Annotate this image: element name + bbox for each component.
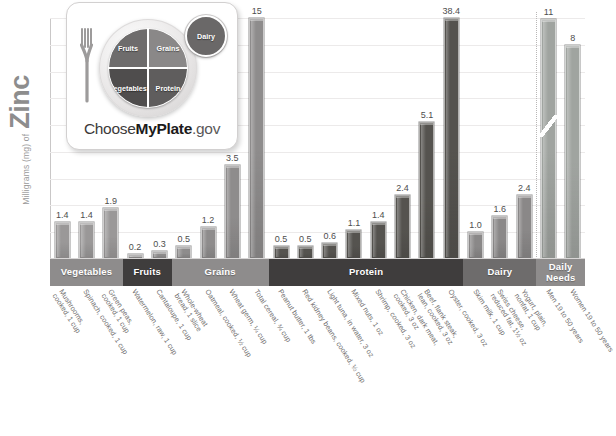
bar (103, 208, 118, 259)
category-label-grains: Grains (172, 259, 269, 286)
x-tick-label: Watermelon, raw, 1 cup (130, 288, 178, 356)
bar (565, 45, 580, 259)
bar-highlight (421, 124, 426, 257)
bar (492, 216, 507, 259)
bar-highlight (567, 47, 572, 257)
fork-icon (80, 27, 94, 103)
bar (79, 222, 94, 259)
bar-value-label: 1.9 (95, 196, 127, 206)
bar-value-label: 2.4 (387, 183, 419, 193)
x-tick-label: Oatmeal, cooked, ½ cup (203, 288, 253, 359)
bar-highlight (373, 224, 378, 257)
bar-top-cap (226, 166, 239, 168)
bar (298, 246, 313, 259)
bar-value-label: 5.1 (411, 110, 443, 120)
category-label-daily-needs: DailyNeeds (536, 259, 585, 286)
bar-top-cap (372, 223, 385, 225)
bar (419, 122, 434, 259)
y-axis-units-label: Milligrams (mg) of (21, 134, 31, 205)
bar (346, 230, 361, 259)
bar (371, 222, 386, 259)
bar-top-cap (396, 196, 409, 198)
bar-value-label: 8 (557, 33, 589, 43)
bar (444, 18, 459, 259)
bar-highlight (348, 232, 353, 257)
bar-value-label: 0.5 (168, 234, 200, 244)
bar-value-label: 38.4 (435, 6, 467, 16)
bar-highlight (251, 20, 256, 257)
bar-highlight (470, 234, 475, 257)
x-tick-label: Women 19 to 50 years (568, 288, 615, 354)
bar-highlight (324, 245, 329, 257)
wordmark-myplate: MyPlate (136, 120, 192, 137)
bar (225, 165, 240, 259)
category-label-protein: Protein (269, 259, 464, 286)
bar-highlight (57, 224, 62, 257)
bar-top-cap (250, 19, 263, 21)
bar (517, 195, 532, 259)
daily-needs-divider (536, 12, 537, 259)
bar-value-label: 15 (241, 6, 273, 16)
bar-highlight (81, 224, 86, 257)
bar-value-label: 0.6 (314, 231, 346, 241)
wordmark-gov: .gov (192, 120, 220, 137)
bar-top-cap (56, 223, 69, 225)
bar (541, 19, 556, 259)
bar-top-cap (420, 123, 433, 125)
y-axis-title: Milligrams (mg) of Zinc (5, 45, 45, 235)
bar-highlight (397, 197, 402, 257)
bar-top-cap (275, 247, 288, 249)
bar-highlight (105, 210, 110, 257)
bar (176, 246, 191, 259)
bar (322, 243, 337, 259)
x-axis-tick-labels: Mushrooms,cooked, 1 cupSpinach, cooked, … (50, 288, 585, 436)
bar-highlight (519, 197, 524, 257)
bar-value-label: 1.4 (362, 210, 394, 220)
bar (274, 246, 289, 259)
bar-top-cap (202, 228, 215, 230)
bar-top-cap (80, 223, 93, 225)
bar-top-cap (469, 233, 482, 235)
bar-value-label: 1.6 (484, 204, 516, 214)
bar-highlight (543, 21, 548, 257)
bar (395, 195, 410, 259)
bar-highlight (203, 229, 208, 257)
bar-top-cap (566, 46, 579, 48)
bar-top-cap (493, 217, 506, 219)
bar-top-cap (323, 244, 336, 246)
bar-highlight (227, 167, 232, 257)
bar-top-cap (518, 196, 531, 198)
bar-value-label: 1.4 (70, 210, 102, 220)
bar-highlight (300, 248, 305, 257)
bar-top-cap (153, 252, 166, 254)
x-tick-label: Light tuna, in water, 3 oz (325, 288, 375, 359)
wordmark-choose: Choose (84, 120, 136, 137)
bar-highlight (178, 248, 183, 257)
bar-highlight (446, 20, 451, 257)
category-label-fruits: Fruits (123, 259, 172, 286)
bar-highlight (276, 248, 281, 257)
plate-section-dairy: Dairy (185, 15, 227, 57)
category-band: VegetablesFruitsGrainsProteinDairyDailyN… (50, 259, 585, 286)
category-label-vegetables: Vegetables (50, 259, 123, 286)
bar-top-cap (104, 209, 117, 211)
bar (249, 18, 264, 259)
bar-value-label: 1.2 (192, 215, 224, 225)
bar-top-cap (177, 247, 190, 249)
plate-sections: Fruits Grains Vegetables Protein (108, 28, 188, 108)
bar-value-label: 3.5 (216, 153, 248, 163)
bar (55, 222, 70, 259)
bar-top-cap (299, 247, 312, 249)
bar-top-cap (542, 20, 555, 22)
myplate-wordmark: ChooseMyPlate.gov (67, 120, 237, 138)
bar-value-label: 1.0 (460, 220, 492, 230)
bar (201, 227, 216, 259)
y-axis-nutrient-label: Zinc (5, 75, 36, 129)
myplate-logo: Fruits Grains Vegetables Protein Dairy C… (66, 2, 238, 150)
bar-top-cap (445, 19, 458, 21)
bar-highlight (494, 218, 499, 257)
category-label-dairy: Dairy (463, 259, 536, 286)
bar-top-cap (129, 255, 142, 257)
bar-top-cap (347, 231, 360, 233)
